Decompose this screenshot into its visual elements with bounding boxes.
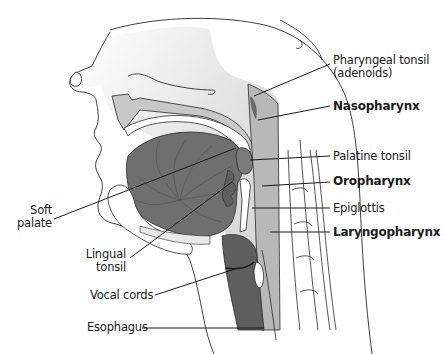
label-nasopharynx: Nasopharynx [333, 100, 420, 113]
label-vocal-cords: Vocal cords [90, 289, 153, 302]
label-lingual-tonsil-line2: tonsil [80, 261, 126, 274]
nostril [70, 72, 81, 86]
pharynx-diagram: Pharyngeal tonsil (adenoids) Nasopharynx… [0, 0, 444, 354]
label-palatine-tonsil: Palatine tonsil [333, 150, 411, 163]
label-laryngopharynx: Laryngopharynx [333, 226, 440, 239]
label-soft-palate-line2: palate [10, 217, 52, 230]
cervical-spine [288, 140, 336, 330]
label-adenoids: (adenoids) [333, 67, 392, 80]
skull-inner-outline [280, 20, 322, 60]
label-oropharynx: Oropharynx [333, 175, 411, 188]
label-esophagus: Esophagus [87, 321, 148, 334]
label-epiglottis: Epiglottis [333, 202, 385, 215]
